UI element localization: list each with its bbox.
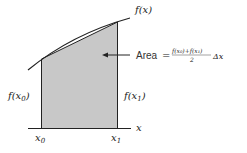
formula-numerator: f(x₀)+f(x₁) [171,47,203,55]
axis-label: x [136,122,142,133]
caption-remnant [0,146,247,153]
area-word: Area [136,50,158,61]
trapezoid-rule-diagram: f(x) f(x0) f(x1) x x0 x1 Area = f(x₀)+f(… [0,0,247,153]
x1-label: x1 [111,132,121,145]
left-height-label: f(x0) [7,90,30,103]
right-height-label: f(x1) [123,90,146,103]
equals-sign: = [162,50,170,61]
formula-denominator: 2 [189,56,194,63]
formula-delta-x: Δx [212,52,224,61]
x0-label: x0 [35,132,46,145]
curve-label: f(x) [134,4,152,15]
trapezoid-area [42,22,118,129]
